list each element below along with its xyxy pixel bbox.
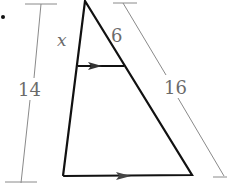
label-14: 14 xyxy=(18,79,41,100)
label-6: 6 xyxy=(111,25,122,46)
label-16: 16 xyxy=(164,77,187,98)
triangle-diagram: x 6 14 16 xyxy=(0,0,227,195)
label-x: x xyxy=(57,30,67,50)
bullet-marker xyxy=(1,15,5,19)
